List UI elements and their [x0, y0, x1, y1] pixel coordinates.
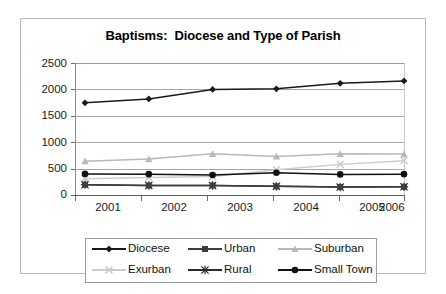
legend-item-rural[interactable]: Rural: [186, 260, 282, 280]
circle-icon: [289, 264, 301, 276]
legend-label: Rural: [224, 263, 251, 275]
x-tick-mark: [141, 196, 142, 201]
y-tick-label: 1500: [21, 109, 67, 121]
series-line: [85, 154, 404, 161]
legend-item-exurban[interactable]: Exurban: [90, 260, 186, 280]
x-tick-label: 2003: [217, 201, 263, 213]
x-tick-mark: [339, 196, 340, 201]
series-diocese: [82, 78, 408, 107]
circle-marker: [337, 171, 344, 178]
cross-x-marker: [106, 267, 113, 274]
legend-label: Exurban: [128, 263, 171, 275]
circle-marker: [292, 267, 299, 274]
square-marker: [210, 182, 216, 188]
diamond-marker: [145, 96, 152, 103]
square-marker: [401, 184, 407, 190]
asterisk-marker: [201, 266, 209, 274]
x-tick-label: 2006: [361, 201, 446, 213]
diamond-marker: [82, 99, 89, 106]
legend-item-small-town[interactable]: Small Town: [276, 260, 372, 280]
series-layer: [75, 63, 405, 195]
diamond-marker: [106, 246, 113, 253]
asterisk-icon: [199, 264, 211, 276]
diamond-marker: [337, 80, 344, 87]
x-tick-mark: [207, 196, 208, 201]
y-tick-label: 1000: [21, 136, 67, 148]
square-icon: [199, 243, 211, 255]
legend-label: Diocese: [128, 242, 170, 254]
circle-marker: [273, 170, 280, 177]
circle-marker: [146, 171, 153, 178]
circle-marker: [401, 171, 408, 178]
legend-label: Small Town: [314, 263, 373, 275]
chart-figure: Baptisms: Diocese and Type of Parish 250…: [0, 0, 446, 294]
x-tick-label: 2002: [151, 201, 197, 213]
series-line: [85, 173, 404, 175]
triangle-marker: [291, 245, 298, 252]
series-exurban: [82, 157, 408, 182]
y-tick-label: 500: [21, 162, 67, 174]
square-marker: [146, 182, 152, 188]
series-small-town: [82, 170, 408, 179]
square-marker: [337, 184, 343, 190]
legend-row: Diocese Urban Suburban: [86, 239, 376, 259]
series-urban: [82, 182, 407, 190]
diamond-marker: [273, 85, 280, 92]
triangle-icon: [289, 243, 301, 255]
chart-legend: Diocese Urban Suburban Exurban: [85, 238, 377, 283]
x-axis-line: [75, 195, 405, 196]
legend-item-suburban[interactable]: Suburban: [276, 239, 372, 259]
series-suburban: [81, 150, 407, 164]
legend-item-urban[interactable]: Urban: [186, 239, 282, 259]
circle-marker: [82, 171, 89, 178]
x-tick-mark: [75, 196, 76, 201]
diamond-icon: [103, 243, 115, 255]
y-tick-label: 2000: [21, 83, 67, 95]
x-tick-mark: [273, 196, 274, 201]
legend-label: Urban: [224, 242, 255, 254]
x-tick-label: 2004: [283, 201, 329, 213]
x-tick-label: 2001: [85, 201, 131, 213]
circle-marker: [209, 172, 216, 179]
square-marker: [82, 182, 88, 188]
chart-frame: Baptisms: Diocese and Type of Parish 250…: [20, 18, 426, 274]
legend-label: Suburban: [314, 242, 364, 254]
square-marker: [202, 246, 208, 252]
legend-row: Exurban Rural Small Town: [86, 260, 376, 280]
series-line: [85, 185, 404, 187]
chart-title: Baptisms: Diocese and Type of Parish: [21, 28, 425, 43]
legend-item-diocese[interactable]: Diocese: [90, 239, 186, 259]
diamond-marker: [401, 78, 408, 85]
y-tick-label: 0: [21, 188, 67, 200]
y-tick-label: 2500: [21, 57, 67, 69]
cross-x-icon: [103, 264, 115, 276]
series-line: [85, 81, 404, 103]
series-line: [85, 161, 404, 179]
diamond-marker: [209, 86, 216, 93]
square-marker: [273, 183, 279, 189]
